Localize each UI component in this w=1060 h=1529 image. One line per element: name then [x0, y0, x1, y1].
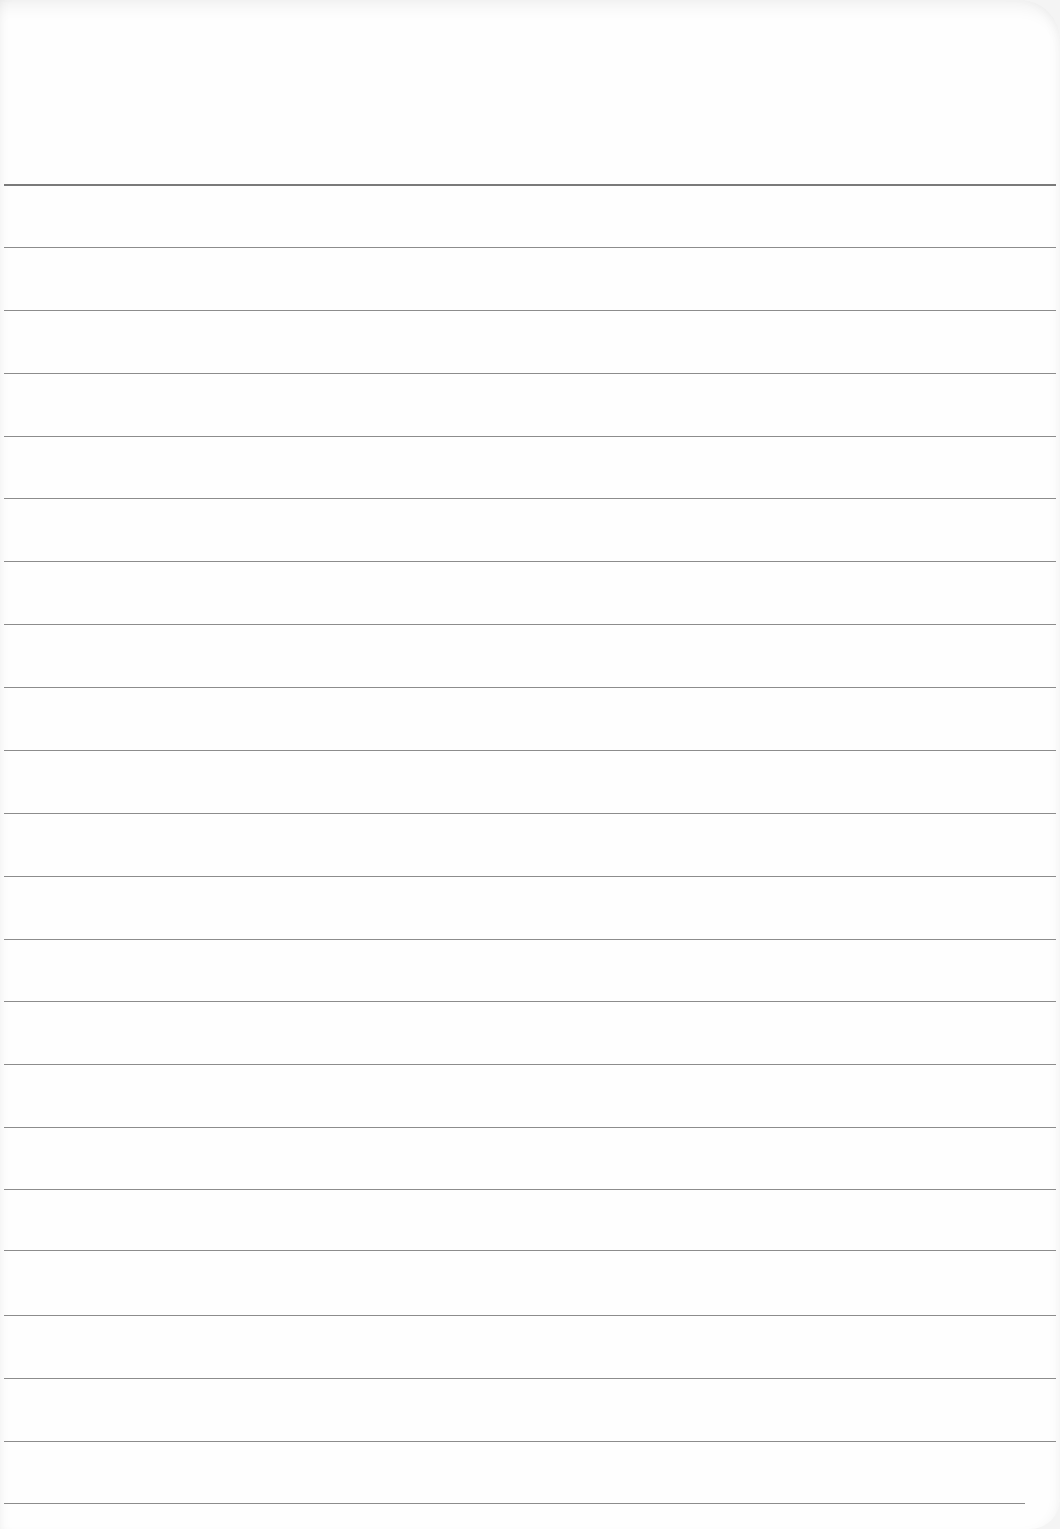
ruled-line — [4, 687, 1056, 688]
ruled-line — [4, 436, 1056, 437]
ruled-line — [4, 310, 1056, 311]
ruled-line — [4, 939, 1056, 940]
ruled-line — [4, 373, 1056, 374]
ruled-line — [4, 1189, 1056, 1190]
ruled-line — [4, 1378, 1056, 1379]
ruled-line — [4, 624, 1056, 625]
ruled-line — [4, 1315, 1056, 1316]
ruled-line — [4, 1503, 1025, 1504]
ruled-line — [4, 813, 1056, 814]
ruled-line — [4, 498, 1056, 499]
ruled-line — [4, 1001, 1056, 1002]
ruled-line — [4, 1064, 1056, 1065]
ruled-line — [4, 1250, 1056, 1251]
ruled-line — [4, 1127, 1056, 1128]
ruled-line — [4, 561, 1056, 562]
lined-paper — [0, 0, 1060, 1529]
ruled-line — [4, 247, 1056, 248]
ruled-line — [4, 750, 1056, 751]
ruled-line — [4, 876, 1056, 877]
ruled-line — [4, 184, 1056, 186]
ruled-line — [4, 1441, 1056, 1442]
